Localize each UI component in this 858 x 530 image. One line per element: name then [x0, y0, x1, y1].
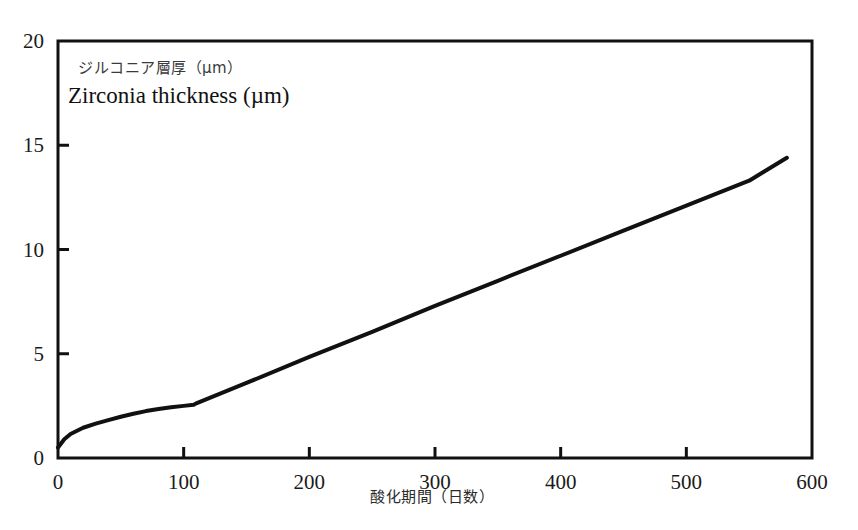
- y-tick-label: 20: [0, 31, 44, 52]
- y-tick-label: 15: [0, 135, 44, 156]
- x-tick-label: 400: [545, 472, 577, 493]
- chart-plot-area: [0, 0, 858, 530]
- x-tick-label: 500: [671, 472, 703, 493]
- y-tick-label: 10: [0, 239, 44, 260]
- y-tick-label: 5: [0, 343, 44, 364]
- x-tick-label: 100: [168, 472, 200, 493]
- x-axis-label: 酸化期間（日数）: [370, 485, 494, 506]
- x-axis-ticks: [184, 447, 687, 458]
- data-series-line: [58, 158, 787, 448]
- x-tick-label: 0: [53, 472, 64, 493]
- y-tick-label: 0: [0, 448, 44, 469]
- x-tick-label: 200: [294, 472, 326, 493]
- chart-title-english: Zirconia thickness (µm): [68, 83, 289, 109]
- chart-figure: 05101520 0100200300400500600 ジルコニア層厚（µm）…: [0, 0, 858, 530]
- chart-title-japanese: ジルコニア層厚（µm）: [78, 56, 243, 77]
- y-axis-ticks: [58, 145, 69, 354]
- x-tick-label: 600: [796, 472, 828, 493]
